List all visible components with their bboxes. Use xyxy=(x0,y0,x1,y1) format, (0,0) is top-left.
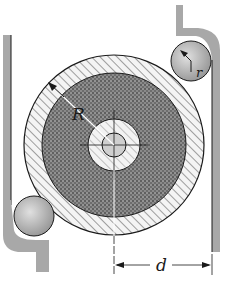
label-R: R xyxy=(71,104,85,124)
diagram-canvas: R r d xyxy=(0,0,225,287)
label-r: r xyxy=(196,65,203,80)
dimension-d: d xyxy=(115,254,212,275)
roller-bottom-left xyxy=(14,196,54,236)
label-d: d xyxy=(156,255,167,275)
roller-top-right: r xyxy=(171,41,211,81)
